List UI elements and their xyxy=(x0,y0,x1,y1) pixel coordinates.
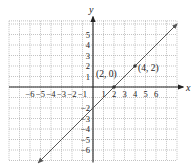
tick-labels: −6−5−4−3−2−112345654321−2−3−4−5−6 xyxy=(25,30,158,156)
x-axis-label: x xyxy=(185,82,191,93)
y-tick-label: −4 xyxy=(81,124,91,134)
x-tick-label: −4 xyxy=(46,89,56,99)
x-tick-label: −6 xyxy=(25,89,34,99)
x-tick-label: −5 xyxy=(36,89,45,99)
y-tick-label: 5 xyxy=(86,30,90,40)
x-tick-label: 6 xyxy=(154,89,158,99)
y-tick-label: −6 xyxy=(81,145,90,155)
y-tick-label: 3 xyxy=(86,51,90,61)
x-tick-label: 2 xyxy=(112,89,116,99)
y-tick-label: 1 xyxy=(86,72,90,82)
y-axis-label: y xyxy=(88,4,94,15)
point-label: (2, 0) xyxy=(96,69,117,80)
y-tick-label: −2 xyxy=(81,103,90,113)
data-point xyxy=(133,64,137,68)
y-tick-label: 2 xyxy=(86,61,90,71)
axes: xy xyxy=(9,4,191,163)
data-point xyxy=(112,85,116,89)
x-tick-label: 3 xyxy=(122,89,126,99)
x-tick-label: −1 xyxy=(78,89,87,99)
coordinate-plane-chart: xy −6−5−4−3−2−112345654321−2−3−4−5−6 (2,… xyxy=(0,0,192,168)
x-tick-label: 5 xyxy=(143,89,147,99)
x-tick-label: −3 xyxy=(57,89,66,99)
data-points: (2, 0)(4, 2) xyxy=(96,63,159,89)
x-tick-label: −2 xyxy=(67,89,76,99)
y-tick-label: −5 xyxy=(81,135,90,145)
point-label: (4, 2) xyxy=(138,63,159,74)
